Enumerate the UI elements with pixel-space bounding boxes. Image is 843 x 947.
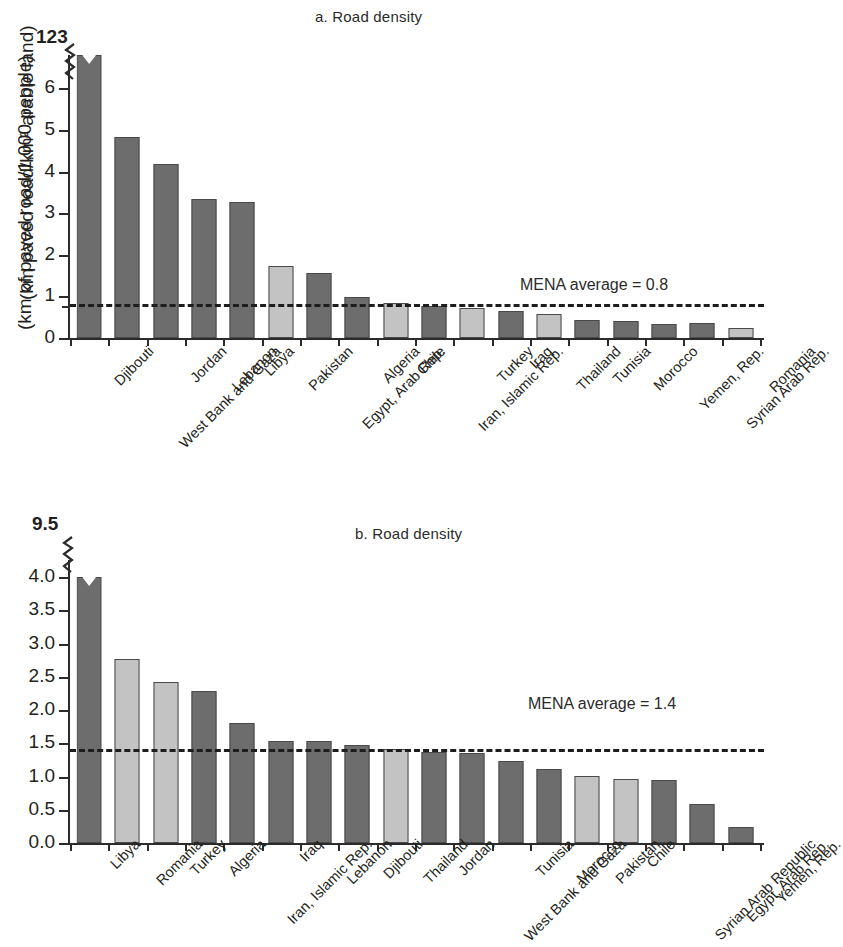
y-tick: 1.0: [59, 777, 68, 779]
y-tick-label: 2.0: [29, 699, 55, 718]
bar: [268, 741, 293, 843]
panel-b-average-line: [70, 749, 764, 752]
x-axis-category-label: Iran, Islamic Rep.: [284, 836, 375, 927]
bar-slot: [415, 55, 453, 338]
bar: [575, 320, 600, 338]
bar-slot: [568, 55, 606, 338]
x-axis-category-label: Libya: [107, 836, 143, 872]
bar: [192, 199, 217, 338]
y-tick: 3.0: [59, 644, 68, 646]
bar: [690, 323, 715, 338]
bar: [652, 324, 677, 338]
bar: [537, 769, 562, 843]
x-axis-category-label: Algeria: [225, 836, 268, 879]
bar-slot: [453, 560, 491, 843]
y-tick: 1.5: [59, 743, 68, 745]
bar: [537, 314, 562, 338]
bar-slot: [683, 560, 721, 843]
bar-slot: [70, 560, 108, 843]
bar: [460, 753, 485, 843]
bar-slot: [415, 560, 453, 843]
y-tick: 4.0: [59, 577, 68, 579]
y-tick-label: 4: [44, 161, 55, 180]
y-tick-label: 3.0: [29, 633, 55, 652]
bar-slot: [722, 55, 760, 338]
bar: [613, 321, 638, 338]
panel-b-x-axis-labels: LibyaRomaniaTurkeyAlgeriaIran, Islamic R…: [68, 836, 768, 947]
y-tick-label: 1: [44, 285, 55, 304]
panel-b-axis-break-value: 9.5: [32, 513, 58, 535]
y-tick-label: 0: [44, 327, 55, 346]
bar-slot: [492, 560, 530, 843]
y-tick-label: 3.5: [29, 599, 55, 618]
y-tick: 0: [59, 338, 68, 340]
bar-slot: [338, 55, 376, 338]
chart-panel-a: a. Road density 123 (km paved road/km² a…: [0, 0, 775, 470]
y-tick: 2.5: [59, 677, 68, 679]
bar: [192, 691, 217, 843]
bar-slot: [300, 560, 338, 843]
bar: [460, 308, 485, 338]
panel-b-average-label: MENA average = 1.4: [528, 695, 676, 713]
y-tick-label: 4.0: [29, 566, 55, 585]
bar: [153, 164, 178, 338]
bar: [153, 682, 178, 843]
panel-a-title: a. Road density: [315, 8, 422, 25]
y-tick-label: 2: [44, 244, 55, 263]
x-axis-category-label: Jordan: [187, 343, 230, 386]
bar-slot: [223, 55, 261, 338]
y-tick-label: 2.5: [29, 666, 55, 685]
bar-slot: [492, 55, 530, 338]
x-axis-category-label: Yemen, Rep.: [697, 343, 767, 413]
bar-slot: [70, 55, 108, 338]
x-axis-category-label: Morocco: [650, 343, 701, 394]
x-axis-category-label: Djibouti: [111, 343, 157, 389]
y-tick-label: 5: [44, 119, 55, 138]
x-axis-category-label: Tunisia: [532, 836, 576, 880]
y-tick-label: 0.5: [29, 799, 55, 818]
bar-slot: [185, 560, 223, 843]
bar: [230, 202, 255, 338]
bar-slot: [377, 560, 415, 843]
bar: [268, 266, 293, 338]
y-tick: 0.5: [59, 810, 68, 812]
bar-slot: [185, 55, 223, 338]
y-tick-label: 3: [44, 202, 55, 221]
panel-b-y-axis-label: (km of paved road/1,000 people): [14, 55, 36, 330]
bar: [422, 306, 447, 338]
bar: [345, 745, 370, 843]
y-tick: 5: [59, 130, 68, 132]
panel-a-average-line: [70, 304, 764, 307]
bar: [307, 741, 332, 843]
y-tick: 6: [59, 88, 68, 90]
panel-a-bar-group: [70, 55, 758, 338]
bar: [422, 752, 447, 843]
bar-slot: [453, 55, 491, 338]
y-tick: 2: [59, 255, 68, 257]
bar-slot: [607, 55, 645, 338]
panel-a-plot-area: 0123456: [68, 55, 758, 340]
bar: [383, 303, 408, 338]
y-tick-label: 0.0: [29, 832, 55, 851]
bar-slot: [147, 560, 185, 843]
bar-slot: [300, 55, 338, 338]
x-axis-category-label: Pakistan: [305, 343, 356, 394]
bar: [652, 780, 677, 843]
y-tick: 3.5: [59, 610, 68, 612]
panel-a-average-label: MENA average = 0.8: [520, 276, 668, 294]
panel-a-x-axis-labels: DjiboutiWest Bank and GazaJordanLebanonL…: [68, 343, 768, 463]
bar: [575, 776, 600, 843]
y-tick-minor: [62, 306, 68, 308]
bar: [498, 761, 523, 843]
bar-slot: [262, 560, 300, 843]
bar: [498, 311, 523, 338]
y-tick: 4: [59, 172, 68, 174]
y-tick: 3: [59, 213, 68, 215]
bar: [230, 723, 255, 843]
y-tick: 2.0: [59, 710, 68, 712]
bar-slot: [147, 55, 185, 338]
bar-slot: [223, 560, 261, 843]
bar-slot: [108, 560, 146, 843]
bar-slot: [338, 560, 376, 843]
bar: [383, 749, 408, 843]
